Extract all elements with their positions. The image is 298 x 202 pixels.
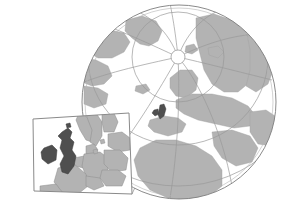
figure-canvas — [0, 0, 298, 202]
europe-inset[interactable] — [33, 113, 132, 196]
inset-island-sjaelland — [93, 149, 98, 154]
globe-inset-illustration — [0, 0, 298, 202]
inset-island-gotland — [100, 139, 105, 144]
north-pole-ring — [171, 50, 185, 64]
inset-highlight-scotland-isles — [66, 123, 71, 128]
